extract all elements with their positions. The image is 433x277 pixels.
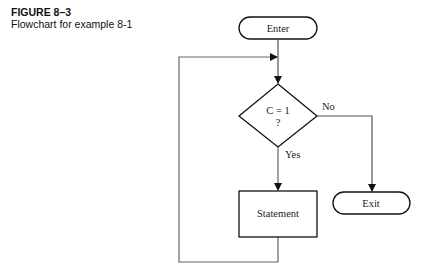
decision-node: C = 1 ? — [239, 84, 317, 147]
yes-label: Yes — [285, 149, 300, 160]
exit-node: Exit — [333, 192, 410, 214]
edge-no-exit — [317, 116, 372, 191]
statement-label: Statement — [257, 208, 299, 219]
enter-label: Enter — [267, 23, 290, 34]
decision-condition: C = 1 — [266, 105, 289, 116]
flowchart: Enter C = 1 ? No Yes Statement Exit — [0, 0, 433, 277]
no-label: No — [322, 101, 335, 112]
decision-question-mark: ? — [276, 117, 281, 128]
statement-node: Statement — [239, 191, 317, 237]
exit-label: Exit — [362, 198, 380, 209]
enter-node: Enter — [239, 17, 317, 39]
